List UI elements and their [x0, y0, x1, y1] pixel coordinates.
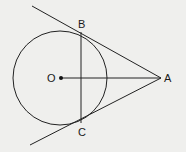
- label-b: B: [78, 18, 85, 30]
- tangent-line-ac: [30, 78, 161, 145]
- tangent-line-ab: [32, 6, 161, 78]
- label-c: C: [78, 126, 86, 138]
- center-point: [59, 76, 63, 80]
- geometry-diagram: O A B C: [0, 0, 186, 152]
- label-o: O: [47, 72, 56, 84]
- label-a: A: [164, 72, 172, 84]
